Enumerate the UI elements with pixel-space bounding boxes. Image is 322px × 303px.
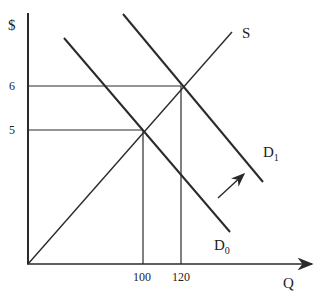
demand-d1-subscript: 1 (274, 152, 279, 163)
y-axis-label: $ (8, 17, 16, 33)
quantity-tick-120: 120 (172, 270, 190, 284)
demand-d0-letter: D (214, 237, 225, 253)
demand-d0-label: D0 (214, 237, 230, 256)
supply-label: S (242, 25, 250, 41)
price-tick-5: 5 (9, 123, 15, 137)
price-tick-6: 6 (9, 79, 15, 93)
quantity-tick-100: 100 (133, 270, 151, 284)
demand-d1-label: D1 (263, 144, 279, 163)
demand-d0-subscript: 0 (225, 245, 230, 256)
demand-shift-arrow (218, 174, 244, 198)
supply-demand-diagram: $ Q 6 5 100 120 S D1 D0 (0, 0, 322, 303)
supply-curve (28, 32, 232, 264)
demand-d1-letter: D (263, 144, 274, 160)
x-axis-label: Q (283, 275, 294, 291)
demand-curve-d0 (64, 38, 230, 232)
